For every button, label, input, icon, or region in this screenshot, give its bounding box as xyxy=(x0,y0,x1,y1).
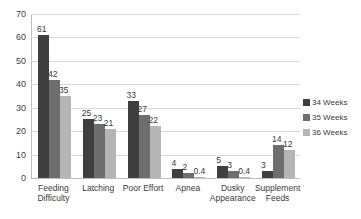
bar xyxy=(60,96,71,178)
bar-value-label: 42 xyxy=(48,70,57,79)
bar xyxy=(273,145,284,178)
bar xyxy=(194,177,205,178)
bar-group: 31412 xyxy=(262,14,295,178)
bar-group: 332722 xyxy=(128,14,161,178)
bar xyxy=(83,119,94,178)
y-axis-tick-label: 0 xyxy=(2,174,26,183)
bar xyxy=(94,124,105,178)
bar-value-label: 22 xyxy=(149,116,158,125)
gridline xyxy=(31,84,300,85)
bar-value-label: 0.4 xyxy=(238,167,250,176)
bar-value-label: 35 xyxy=(59,86,68,95)
gridline xyxy=(31,14,300,15)
bar-value-label: 4 xyxy=(171,159,176,168)
gridline xyxy=(31,61,300,62)
y-axis-tick-label: 70 xyxy=(2,10,26,19)
y-axis-tick-label: 30 xyxy=(2,104,26,113)
legend-item-label: 36 Weeks xyxy=(312,128,347,137)
bar-value-label: 61 xyxy=(37,25,46,34)
bar-value-label: 27 xyxy=(138,105,147,114)
bar-value-label: 3 xyxy=(227,161,232,170)
gridline xyxy=(31,37,300,38)
y-axis-tick-label: 20 xyxy=(2,127,26,136)
bar-group: 530.4 xyxy=(217,14,250,178)
legend-swatch-icon xyxy=(303,129,310,136)
bar-group: 614235 xyxy=(38,14,71,178)
bar-group: 420.4 xyxy=(172,14,205,178)
bar-value-label: 33 xyxy=(127,91,136,100)
bar xyxy=(38,35,49,178)
bar xyxy=(284,150,295,178)
bar-value-label: 0.4 xyxy=(193,167,205,176)
gridline xyxy=(31,108,300,109)
bar-value-label: 23 xyxy=(93,114,102,123)
bar xyxy=(239,177,250,178)
gridline xyxy=(31,131,300,132)
gridline xyxy=(31,178,300,179)
legend-item-label: 34 Weeks xyxy=(312,98,347,107)
y-axis-tick-label: 50 xyxy=(2,57,26,66)
bar-group: 252321 xyxy=(83,14,116,178)
legend-item-label: 35 Weeks xyxy=(312,113,347,122)
gridline xyxy=(31,155,300,156)
bar-value-label: 14 xyxy=(272,135,281,144)
bar-chart: 010203040506070 614235252321332722420.45… xyxy=(0,0,361,219)
legend-item[interactable]: 35 Weeks xyxy=(303,110,361,125)
bar-value-label: 25 xyxy=(82,109,91,118)
x-axis-category-label: Supplement Feeds xyxy=(251,183,304,203)
legend-item[interactable]: 36 Weeks xyxy=(303,125,361,140)
plot-area: 614235252321332722420.4530.431412 xyxy=(31,14,300,178)
bar xyxy=(105,129,116,178)
y-axis-tick-label: 10 xyxy=(2,151,26,160)
legend-swatch-icon xyxy=(303,114,310,121)
bar xyxy=(262,171,273,178)
y-axis-tick-label: 40 xyxy=(2,80,26,89)
bar-value-label: 21 xyxy=(104,119,113,128)
bar-value-label: 5 xyxy=(216,156,221,165)
legend-item[interactable]: 34 Weeks xyxy=(303,95,361,110)
legend: 34 Weeks35 Weeks36 Weeks xyxy=(303,95,361,140)
bar-value-label: 12 xyxy=(283,140,292,149)
legend-swatch-icon xyxy=(303,99,310,106)
y-axis-tick-label: 60 xyxy=(2,33,26,42)
bar-value-label: 3 xyxy=(261,161,266,170)
bar-value-label: 2 xyxy=(182,163,187,172)
bar xyxy=(150,126,161,178)
